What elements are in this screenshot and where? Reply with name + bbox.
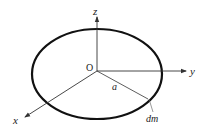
y-axis-label: y	[189, 65, 195, 77]
x-axis-label: x	[12, 114, 18, 126]
dm-leader-line	[149, 99, 153, 112]
x-axis	[25, 71, 97, 117]
z-axis-label: z	[92, 5, 98, 17]
mass-element-label: dm	[146, 113, 158, 124]
ring-diagram: z y x O a dm	[0, 0, 208, 137]
radius-label: a	[112, 81, 117, 92]
radius-line	[97, 71, 148, 99]
origin-label: O	[86, 62, 93, 73]
